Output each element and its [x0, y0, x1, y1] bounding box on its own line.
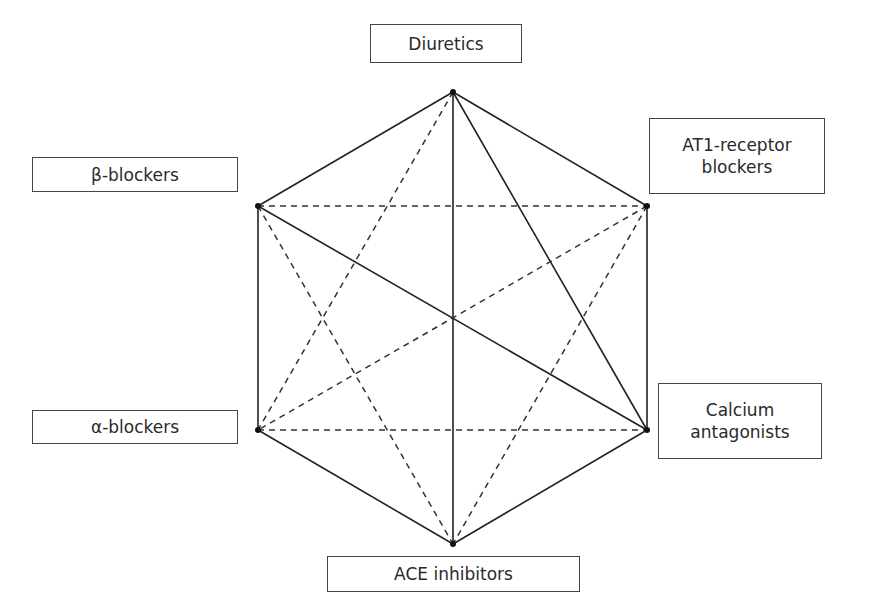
edge-alpha-ace — [258, 430, 453, 544]
label-at1-line2: blockers — [702, 156, 773, 178]
node-dot-at1 — [644, 203, 650, 209]
figure-caption-clipped — [8, 607, 868, 616]
node-dot-ace — [450, 541, 456, 547]
label-diuretics: Diuretics — [370, 24, 522, 63]
label-beta-blockers: β-blockers — [32, 157, 238, 192]
edge-beta-ace — [258, 206, 453, 544]
label-calcium-line1: Calcium — [706, 399, 774, 421]
label-beta-text: β-blockers — [91, 164, 179, 186]
label-at1-line1: AT1-receptor — [682, 134, 791, 156]
edge-diuretics-beta — [258, 92, 453, 206]
edge-diuretics-at1 — [453, 92, 647, 206]
label-ace-inhibitors: ACE inhibitors — [327, 556, 580, 592]
label-diuretics-text: Diuretics — [408, 33, 483, 55]
node-dot-alpha — [255, 427, 261, 433]
node-dot-beta — [255, 203, 261, 209]
label-calcium-line2: antagonists — [690, 421, 789, 443]
node-dot-calcium — [644, 427, 650, 433]
edge-diuretics-alpha — [258, 92, 453, 430]
label-alpha-blockers: α-blockers — [32, 410, 238, 444]
label-calcium-antagonists: Calcium antagonists — [658, 383, 822, 459]
label-at1-receptor-blockers-box: AT1-receptor blockers — [649, 118, 825, 194]
node-dot-diuretics — [450, 89, 456, 95]
label-ace-text: ACE inhibitors — [394, 563, 513, 585]
edge-calcium-ace — [453, 430, 647, 544]
label-alpha-text: α-blockers — [91, 416, 179, 438]
combination-diagram — [0, 0, 872, 616]
